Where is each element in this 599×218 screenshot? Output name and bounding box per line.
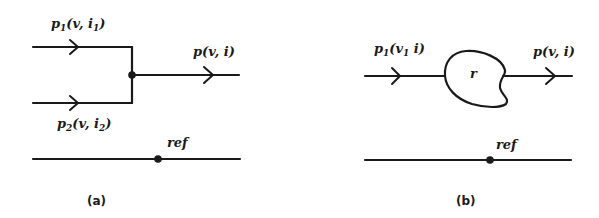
panel-b: r p1(v1 i) p(v, i) ref (b) <box>365 41 575 208</box>
ref-label: ref <box>167 135 190 150</box>
diagram-canvas: p1(v, i1) p2(v, i2) p(v, i) ref (a) r p1… <box>0 0 599 218</box>
input1-label: p1(v1 i) <box>374 41 425 58</box>
input1-label: p1(v, i1) <box>51 16 105 33</box>
panel-a-caption: (a) <box>87 194 106 208</box>
input2-label: p2(v, i2) <box>57 116 111 133</box>
panel-b-caption: (b) <box>456 194 476 208</box>
output-label: p(v, i) <box>193 44 235 59</box>
ref-node-icon <box>154 155 162 163</box>
output-label: p(v, i) <box>533 44 575 59</box>
element-r-label: r <box>470 66 478 81</box>
ref-label: ref <box>496 137 519 152</box>
panel-a: p1(v, i1) p2(v, i2) p(v, i) ref (a) <box>33 16 240 208</box>
ref-node-icon <box>486 156 494 164</box>
